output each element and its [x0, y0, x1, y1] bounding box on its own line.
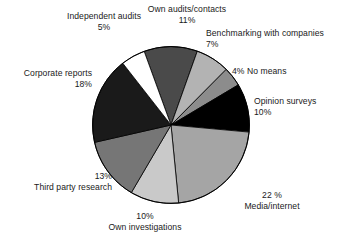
- pie-chart-plot-area: [92, 46, 250, 204]
- pie-chart-svg: [92, 46, 250, 204]
- pie-label-third-party-research-value: 13%: [95, 171, 112, 181]
- pie-label-own-investigations-value: 10%: [136, 211, 153, 221]
- pie-label-own-audits-contacts-text: Own audits/contacts: [148, 4, 226, 14]
- pie-label-independent-audits-text: Independent audits: [67, 11, 141, 21]
- pie-label-benchmarking-with-companies: Benchmarking with companies 7%: [206, 28, 345, 50]
- pie-label-no-means: 4% No means: [232, 66, 332, 77]
- pie-label-opinion-surveys: Opinion surveys 10%: [254, 96, 342, 118]
- pie-label-third-party-research: 13% Third party research: [4, 171, 112, 193]
- pie-slice-group: [93, 47, 250, 204]
- pie-label-media-internet: 22 % Media/internet: [222, 190, 322, 212]
- pie-label-own-audits-contacts-value: 11%: [131, 15, 243, 26]
- pie-label-benchmarking-with-companies-text: Benchmarking with companies: [206, 28, 324, 38]
- pie-label-benchmarking-with-companies-value: 7%: [206, 39, 345, 50]
- pie-label-media-internet-value: 22 %: [262, 190, 282, 200]
- pie-label-corporate-reports-value: 18%: [2, 79, 92, 90]
- pie-label-own-investigations: 10% Own investigations: [85, 211, 205, 233]
- pie-label-own-audits-contacts: Own audits/contacts 11%: [131, 4, 243, 26]
- pie-label-corporate-reports: Corporate reports 18%: [2, 68, 92, 90]
- pie-label-opinion-surveys-text: Opinion surveys: [254, 96, 316, 106]
- pie-label-media-internet-text: Media/internet: [222, 201, 322, 212]
- pie-chart-figure: Independent audits 5% Own audits/contact…: [0, 0, 345, 251]
- pie-label-no-means-text: 4% No means: [232, 66, 287, 76]
- pie-label-own-investigations-text: Own investigations: [85, 222, 205, 233]
- pie-label-third-party-research-text: Third party research: [4, 182, 112, 193]
- pie-label-opinion-surveys-value: 10%: [254, 107, 342, 118]
- pie-label-corporate-reports-text: Corporate reports: [24, 68, 92, 78]
